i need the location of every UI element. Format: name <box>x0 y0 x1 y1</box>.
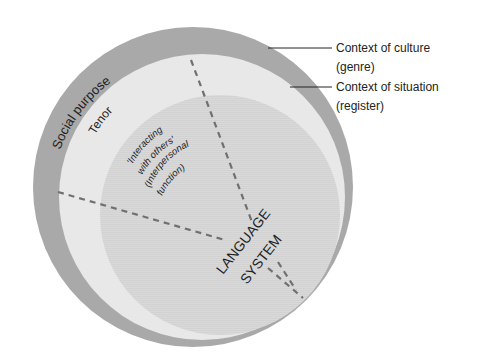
culture-sub: (genre) <box>336 60 375 74</box>
situation-title: Context of situation <box>336 80 439 94</box>
situation-sub: (register) <box>336 99 384 113</box>
context-diagram: Context of culture (genre) Context of si… <box>0 0 480 355</box>
culture-title: Context of culture <box>336 41 430 55</box>
